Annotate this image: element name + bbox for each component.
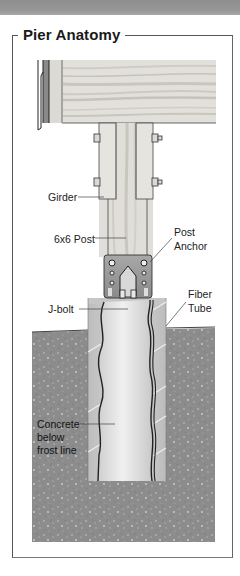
label-j-bolt: J-bolt — [48, 303, 74, 315]
post-and-girder — [94, 123, 162, 257]
label-post-anchor-line2: Anchor — [174, 240, 207, 252]
label-fiber-tube-line2: Tube — [188, 302, 212, 314]
label-post-anchor-line1: Post — [174, 226, 195, 238]
label-girder: Girder — [48, 191, 77, 203]
concrete-core — [98, 300, 156, 481]
label-6x6-post: 6x6 Post — [54, 233, 95, 245]
label-concrete-line1: Concrete — [37, 418, 80, 430]
label-concrete-line3: frost line — [37, 444, 77, 456]
post-anchor — [104, 255, 152, 298]
label-concrete-line2: below — [37, 431, 64, 443]
beam — [38, 60, 216, 130]
label-fiber-tube-line1: Fiber — [188, 288, 212, 300]
